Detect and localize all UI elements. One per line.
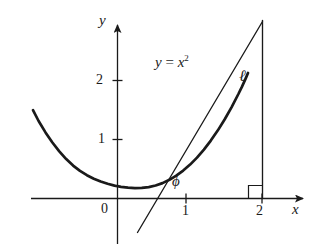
x-tick-label-2: 2	[256, 204, 263, 218]
right-angle-marker	[249, 186, 263, 199]
x-tick-label-1: 1	[182, 204, 189, 218]
curve-equation-label: y = x2	[155, 54, 189, 70]
curve-equation-exponent: 2	[184, 53, 189, 63]
y-axis-label: y	[99, 13, 106, 28]
origin-label: 0	[101, 202, 108, 216]
angle-phi-label: ϕ	[172, 174, 180, 189]
y-tick-label-2: 2	[96, 73, 103, 87]
figure-container: y x 0 1 2 1 2 y = x2 ℓ ϕ	[0, 0, 320, 247]
tangent-line-label: ℓ	[239, 68, 246, 84]
x-axis-label: x	[292, 202, 299, 217]
y-tick-label-1: 1	[98, 132, 105, 146]
parabola-curve	[33, 73, 248, 188]
parabola-tangent-diagram	[0, 0, 320, 247]
curve-equation-operator: =	[162, 54, 178, 70]
curve-equation-lhs: y	[155, 54, 162, 70]
